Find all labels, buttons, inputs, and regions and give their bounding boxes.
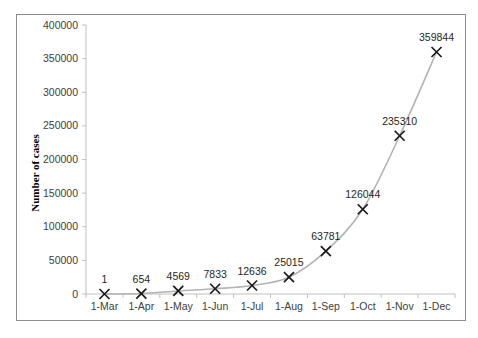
line-chart: 0500001000001500002000002500003000003500…: [0, 0, 478, 338]
x-axis: 1-Mar1-Apr1-May1-Jun1-Jul1-Aug1-Sep1-Oct…: [86, 294, 455, 312]
x-tick-label: 1-Apr: [129, 300, 155, 312]
y-tick-label: 0: [72, 288, 78, 300]
x-marker-icon: [358, 204, 368, 214]
x-marker-icon: [395, 131, 405, 141]
x-tick-label: 1-Mar: [91, 300, 119, 312]
y-tick-label: 200000: [43, 153, 78, 165]
x-tick-label: 1-Oct: [350, 300, 376, 312]
y-tick-label: 350000: [43, 52, 78, 64]
y-tick-label: 150000: [43, 187, 78, 199]
x-tick-label: 1-Dec: [423, 300, 451, 312]
x-marker-icon: [432, 47, 442, 57]
x-marker-icon: [321, 246, 331, 256]
data-label: 1: [102, 273, 108, 285]
x-tick-label: 1-May: [164, 300, 194, 312]
y-tick-label: 400000: [43, 19, 78, 31]
y-tick-label: 50000: [49, 254, 78, 266]
data-label: 12636: [237, 265, 266, 277]
data-labels: 1654456978331263625015637811260442353103…: [102, 31, 455, 285]
y-axis-title: Number of cases: [29, 134, 41, 212]
y-tick-label: 100000: [43, 220, 78, 232]
x-tick-label: 1-Sep: [312, 300, 340, 312]
data-label: 359844: [419, 31, 454, 43]
data-label: 63781: [311, 230, 340, 242]
x-marker-icon: [284, 272, 294, 282]
y-tick-label: 250000: [43, 119, 78, 131]
series-markers: [99, 47, 441, 299]
data-label: 126044: [345, 188, 380, 200]
x-tick-label: 1-Nov: [386, 300, 415, 312]
x-tick-label: 1-Aug: [275, 300, 303, 312]
y-axis: 0500001000001500002000002500003000003500…: [43, 19, 86, 300]
x-tick-label: 1-Jul: [241, 300, 264, 312]
data-label: 654: [133, 273, 151, 285]
data-label: 235310: [382, 115, 417, 127]
x-tick-label: 1-Jun: [202, 300, 228, 312]
data-label: 7833: [203, 268, 227, 280]
data-label: 25015: [274, 256, 303, 268]
series-curve: [104, 52, 436, 294]
data-label: 4569: [167, 270, 191, 282]
y-tick-label: 300000: [43, 86, 78, 98]
